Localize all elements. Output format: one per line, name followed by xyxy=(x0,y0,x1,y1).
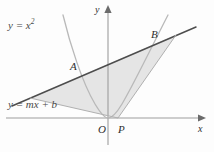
line-equation-label: y = mx + b xyxy=(8,99,57,110)
parabola-equation-text: y = x xyxy=(8,19,31,31)
point-label-o: O xyxy=(98,124,106,135)
point-label-a: A xyxy=(70,61,77,72)
math-figure: y = x2 y = mx + b A B O P y x xyxy=(0,0,214,152)
parabola-equation-label: y = x2 xyxy=(8,18,34,31)
x-axis-arrow-icon xyxy=(198,114,206,121)
y-axis-label: y xyxy=(95,5,99,15)
point-label-p: P xyxy=(118,124,125,135)
parabola-equation-exponent: 2 xyxy=(31,17,35,26)
y-axis-arrow-icon xyxy=(104,5,111,13)
x-axis-label: x xyxy=(198,124,202,134)
point-label-b: B xyxy=(151,29,158,40)
